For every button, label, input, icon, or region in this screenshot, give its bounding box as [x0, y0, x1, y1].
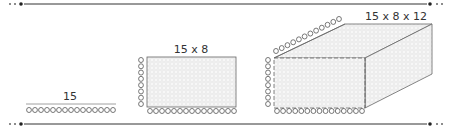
tensor-shapes-diagram: 15 15 x 8 15 x 8 x 12 [0, 0, 451, 130]
tensor-3d: 15 x 8 x 12 [266, 10, 432, 114]
matrix-col-elements [148, 108, 237, 113]
vector-elements [27, 107, 116, 112]
matrix-2d: 15 x 8 [139, 43, 237, 114]
matrix-row-elements [139, 57, 144, 106]
bottom-divider [9, 122, 443, 126]
tensor-row-elements [266, 57, 271, 106]
vector-label: 15 [63, 90, 77, 103]
tensor-col-elements [275, 108, 365, 113]
top-divider [9, 2, 443, 6]
vector-1d: 15 [26, 90, 116, 113]
tensor-label: 15 x 8 x 12 [365, 10, 427, 23]
matrix-label: 15 x 8 [174, 43, 209, 56]
